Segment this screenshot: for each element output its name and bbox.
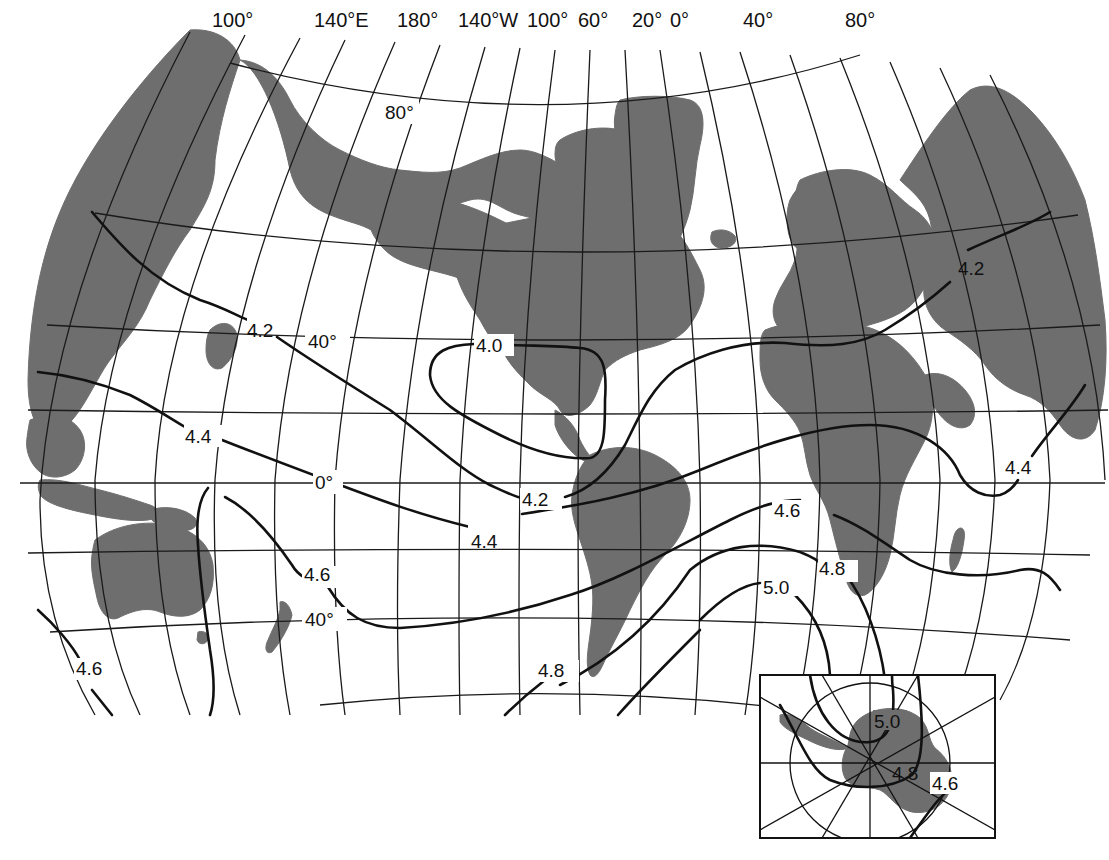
contour-label: 4.6 <box>774 500 800 521</box>
lon-label: 100° <box>212 9 253 31</box>
inset-label-4-6: 4.6 <box>932 773 958 794</box>
contour-label: 4.8 <box>538 660 564 681</box>
land-madagascar <box>950 528 965 572</box>
contour-label: 4.6 <box>304 564 330 585</box>
land-iceland <box>711 230 736 248</box>
contour-4-8-south <box>505 680 545 715</box>
contour-5-0 <box>700 583 760 620</box>
land-asia-west <box>28 30 240 433</box>
land-se-asia <box>27 416 85 477</box>
lat-label-80n: 80° <box>385 102 414 123</box>
antarctic-inset: 5.0 4.8 4.6 <box>760 675 995 843</box>
contour-label: 4.4 <box>185 426 212 447</box>
contour-4-6-far-sw-b <box>92 690 112 715</box>
inset-label-5-0: 5.0 <box>874 711 900 732</box>
land-africa <box>760 321 933 596</box>
contour-label: 4.2 <box>522 489 548 510</box>
lat-label-0: 0° <box>315 472 333 493</box>
contour-label: 4.4 <box>471 531 498 552</box>
contour-label: 4.2 <box>247 320 273 341</box>
lon-label: 60° <box>578 9 608 31</box>
lon-label: 20° <box>632 9 662 31</box>
contour-label: 4.6 <box>76 658 102 679</box>
lon-label: 180° <box>397 9 438 31</box>
parallel-80n <box>230 55 860 105</box>
longitude-labels: 100° 140°E 180° 140°W 100° 60° 20° 0° 40… <box>212 9 875 31</box>
contour-4-6-nz <box>225 497 305 578</box>
contour-label: 4.4 <box>1005 457 1032 478</box>
land-indonesia <box>38 480 157 521</box>
contour-4-8-right <box>618 630 700 715</box>
lat-label-40s: 40° <box>305 609 334 630</box>
lon-label: 80° <box>845 9 875 31</box>
lon-label: 40° <box>743 9 773 31</box>
parallel-60s <box>320 694 800 710</box>
lon-label: 140°E <box>314 9 369 31</box>
inset-label-4-8: 4.8 <box>892 763 918 784</box>
landmasses <box>27 30 1107 677</box>
lon-label: 140°W <box>458 9 518 31</box>
lat-label-40n: 40° <box>308 331 337 352</box>
contour-label: 4.8 <box>819 558 845 579</box>
contour-label: 5.0 <box>763 577 789 598</box>
lon-label: 0° <box>670 9 689 31</box>
contour-label: 4.0 <box>476 335 502 356</box>
contour-4-6-far-sw <box>38 610 80 660</box>
world-contour-map: 4.0 4.2 4.2 4.2 4.4 4.4 4.4 4.6 4.6 4.6 … <box>0 0 1109 860</box>
contour-label: 4.2 <box>958 258 984 279</box>
lon-label: 100° <box>527 9 568 31</box>
land-australia <box>91 523 213 619</box>
